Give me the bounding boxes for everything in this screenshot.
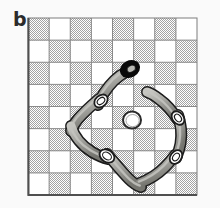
board-cell	[176, 173, 198, 196]
board-cell	[49, 40, 71, 63]
figure-panel-b: b	[0, 0, 220, 208]
board-cell	[155, 18, 177, 41]
board-cell	[113, 18, 135, 41]
figure-canvas	[0, 0, 220, 208]
board-cell	[70, 18, 92, 41]
board-cell	[28, 62, 50, 85]
board-cell	[176, 40, 198, 63]
board-cell	[28, 151, 50, 174]
board-cell	[49, 173, 71, 196]
board-cell	[70, 62, 92, 85]
board-cell	[155, 62, 177, 85]
board-cell	[91, 173, 113, 196]
centre-white-ring	[123, 112, 141, 129]
board-cell	[49, 84, 71, 107]
board-cell	[28, 107, 50, 130]
board-cell	[91, 40, 113, 63]
board-cell	[28, 18, 50, 41]
centre-ring-inner	[126, 115, 139, 127]
board-cell	[134, 40, 156, 63]
board-cell	[134, 129, 156, 152]
board-cell	[176, 84, 198, 107]
